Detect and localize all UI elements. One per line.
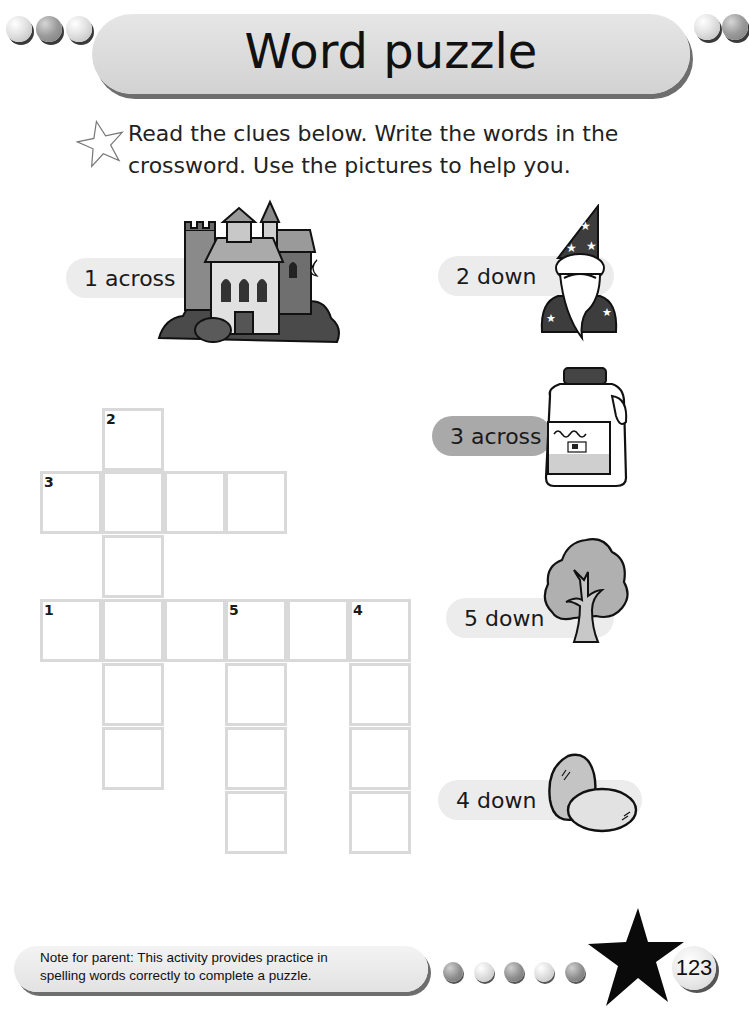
- crossword-cell[interactable]: [102, 535, 164, 598]
- decor-dot-icon: [565, 962, 585, 982]
- star-outline-icon: [76, 118, 126, 168]
- decor-dot-icon: [6, 16, 32, 42]
- title-banner: Word puzzle: [92, 14, 690, 94]
- crossword-cell[interactable]: [225, 791, 287, 854]
- clue-label: 3 across: [450, 424, 542, 449]
- crossword-cell[interactable]: [225, 663, 287, 726]
- clue-number: 3: [44, 474, 54, 490]
- decor-dot-icon: [66, 16, 92, 42]
- castle-icon: [155, 198, 345, 350]
- clue-number: 1: [44, 602, 54, 618]
- decor-dot-icon: [694, 14, 720, 40]
- decor-dot-icon: [504, 962, 524, 982]
- star-filled-icon: [586, 906, 686, 1010]
- crossword-cell[interactable]: [164, 599, 226, 662]
- decor-dot-icon: [443, 962, 463, 982]
- crossword-cell[interactable]: [225, 727, 287, 790]
- crossword-cell[interactable]: [287, 599, 349, 662]
- crossword-cell[interactable]: [102, 471, 164, 534]
- clue-label: 4 down: [456, 788, 536, 813]
- decor-dot-icon: [722, 14, 748, 40]
- decor-dot-icon: [534, 962, 554, 982]
- parent-note: Note for parent: This activity provides …: [14, 946, 428, 992]
- wizard-icon: ★ ★ ★ ★ ★: [536, 204, 622, 344]
- crossword-cell[interactable]: 5: [225, 599, 287, 662]
- parent-note-line: Note for parent: This activity provides …: [40, 949, 428, 967]
- svg-text:★: ★: [566, 241, 577, 255]
- crossword-cell[interactable]: [349, 791, 411, 854]
- svg-text:★: ★: [602, 306, 612, 319]
- crossword-cell[interactable]: [164, 471, 226, 534]
- crossword-cell[interactable]: 2: [102, 408, 164, 471]
- clue-label: 5 down: [464, 606, 544, 631]
- crossword-cell[interactable]: [102, 663, 164, 726]
- svg-text:★: ★: [580, 219, 591, 233]
- svg-text:★: ★: [586, 239, 597, 253]
- page-title: Word puzzle: [245, 23, 538, 79]
- parent-note-line: spelling words correctly to complete a p…: [40, 967, 428, 985]
- tree-icon: [540, 534, 632, 646]
- crossword-cell[interactable]: [349, 663, 411, 726]
- svg-text:★: ★: [546, 312, 556, 325]
- crossword-cell[interactable]: [349, 727, 411, 790]
- page-number: 123: [672, 946, 716, 990]
- crossword-cell[interactable]: 4: [349, 599, 411, 662]
- crossword-cell[interactable]: [102, 599, 164, 662]
- milk-jug-icon: [542, 366, 632, 490]
- decor-dot-icon: [36, 16, 62, 42]
- crossword-cell[interactable]: 3: [40, 471, 102, 534]
- crossword-cell[interactable]: 1: [40, 599, 102, 662]
- clue-number: 4: [353, 602, 363, 618]
- clue-number: 5: [229, 602, 239, 618]
- clue-number: 2: [106, 411, 116, 427]
- clue-label: 2 down: [456, 264, 536, 289]
- clue-3-across: 3 across: [432, 416, 552, 456]
- crossword-cell[interactable]: [225, 471, 287, 534]
- crossword-cell[interactable]: [102, 727, 164, 790]
- instructions-text: Read the clues below. Write the words in…: [128, 118, 688, 182]
- eggs-icon: [544, 750, 638, 834]
- decor-dot-icon: [474, 962, 494, 982]
